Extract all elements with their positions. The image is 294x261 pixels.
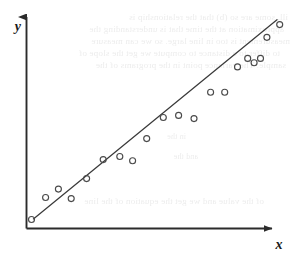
data-point <box>130 158 136 164</box>
data-point <box>68 196 74 202</box>
data-point <box>29 217 35 223</box>
data-point <box>208 89 214 95</box>
data-point <box>191 116 197 122</box>
data-point <box>43 195 49 201</box>
regression-line-group <box>33 20 277 219</box>
data-point <box>144 136 150 142</box>
data-point <box>84 176 90 182</box>
axes-group <box>27 17 273 229</box>
data-point <box>251 60 257 66</box>
y-axis-label: y <box>13 19 22 34</box>
data-point <box>235 64 241 70</box>
data-point <box>245 55 251 61</box>
data-point <box>222 89 228 95</box>
data-point <box>55 186 61 192</box>
data-point <box>277 22 283 28</box>
figure-scatter-plot: ill, some are so (b) that the relationsh… <box>0 0 294 261</box>
data-point <box>117 154 123 160</box>
least-squares-regression-line <box>33 20 277 219</box>
data-point <box>176 112 182 118</box>
data-point <box>264 34 270 40</box>
data-point <box>258 55 264 61</box>
plot-canvas: y x <box>0 0 294 261</box>
data-point <box>160 115 166 121</box>
x-axis-label: x <box>275 237 283 252</box>
